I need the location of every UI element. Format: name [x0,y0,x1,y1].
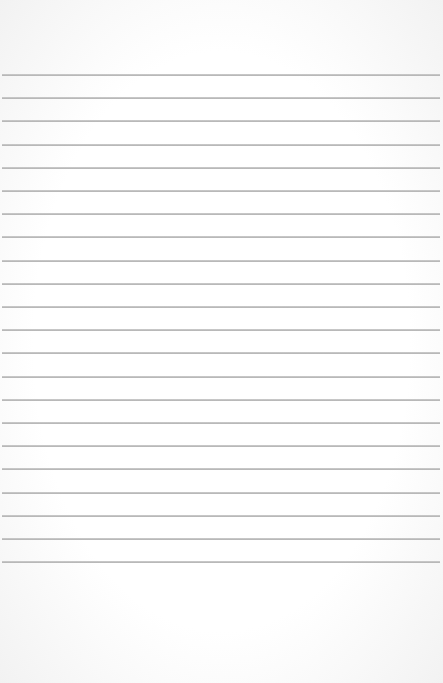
ruled-line [2,329,440,331]
ruled-line [2,74,440,76]
ruled-line [2,167,440,169]
ruled-line [2,352,440,354]
ruled-line [2,515,440,517]
ruled-line [2,468,440,470]
ruled-line [2,538,440,540]
ruled-line [2,283,440,285]
ruled-line [2,213,440,215]
ruled-line [2,399,440,401]
lined-paper-sheet [0,0,443,683]
ruled-line [2,236,440,238]
ruled-line [2,561,440,563]
ruled-line [2,422,440,424]
ruled-line [2,376,440,378]
ruled-line [2,97,440,99]
ruled-line [2,120,440,122]
ruled-line [2,190,440,192]
ruled-line [2,445,440,447]
ruled-line [2,260,440,262]
ruled-line [2,492,440,494]
ruled-line [2,306,440,308]
ruled-line [2,144,440,146]
